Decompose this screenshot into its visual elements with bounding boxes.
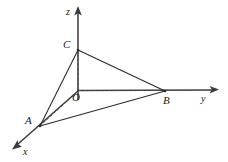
point-label-A: A	[25, 115, 32, 126]
point-label-C: C	[63, 39, 70, 50]
axis-label-x: x	[23, 147, 27, 157]
vertex-dot-B	[164, 90, 167, 93]
axis-group-y	[78, 86, 219, 94]
point-label-O: O	[72, 92, 80, 103]
edge-solid-AC	[40, 50, 78, 126]
vertex-dot-A	[39, 125, 42, 128]
geometry-svg	[0, 0, 228, 162]
axis-label-z: z	[66, 7, 70, 17]
edge-solid-CB	[78, 50, 165, 91]
axis-group-z	[74, 6, 82, 100]
axis-label-y: y	[201, 94, 205, 104]
diagram-canvas: C O A B z y x	[0, 0, 228, 162]
vertex-dot-C	[77, 49, 80, 52]
axis-line-y	[78, 90, 212, 91]
point-label-B: B	[163, 95, 170, 106]
